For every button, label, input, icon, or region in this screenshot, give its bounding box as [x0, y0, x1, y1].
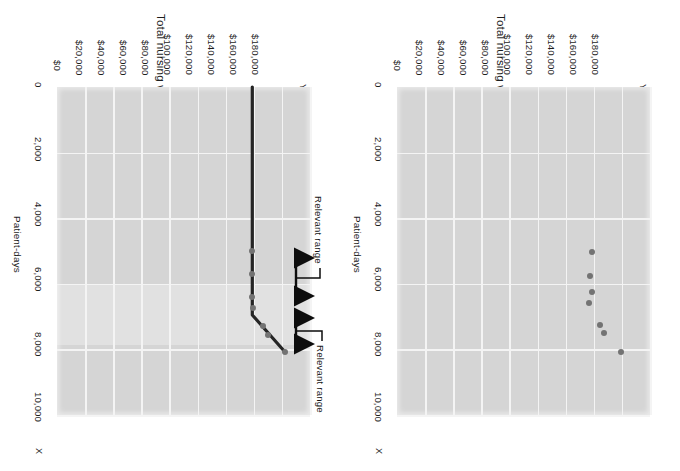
data-point [597, 322, 603, 328]
data-point [282, 349, 288, 355]
data-point [589, 289, 595, 295]
y-tick-5: $100,000 [162, 34, 173, 75]
y-tick-3: $60,000 [458, 40, 469, 75]
chart-right-x-axis-letter: X [374, 448, 384, 454]
gridline-x-6000 [57, 284, 310, 286]
y-tick-7: $140,000 [546, 34, 557, 75]
x-tick-4: 8,000 [33, 332, 44, 357]
y-tick-5: $100,000 [502, 34, 513, 75]
chart-left-plot-area [57, 87, 310, 415]
gridline-y-120000 [566, 87, 568, 415]
gridline-x-10000 [57, 415, 310, 417]
y-tick-9: $180,000 [250, 34, 261, 75]
y-tick-4: $80,000 [480, 40, 491, 75]
gridline-x-8000 [57, 349, 310, 351]
x-tick-2: 4,000 [33, 202, 44, 227]
data-point [601, 330, 607, 336]
x-tick-5: 10,000 [33, 392, 44, 422]
highlight-band [57, 285, 310, 345]
data-point [249, 248, 255, 254]
data-point [265, 332, 271, 338]
y-tick-9: $180,000 [590, 34, 601, 75]
gridline-y-100000 [198, 87, 200, 415]
y-tick-1: $20,000 [414, 40, 425, 75]
y-tick-7: $140,000 [206, 34, 217, 75]
y-tick-4: $80,000 [140, 40, 151, 75]
chart-left-cost-line [57, 87, 310, 415]
x-tick-2: 4,000 [373, 202, 384, 227]
gridline-x-10000 [397, 415, 650, 417]
y-tick-0: $0 [52, 60, 63, 71]
gridline-y-20000 [425, 87, 427, 415]
chart-left-x-axis-letter: X [34, 448, 44, 454]
gridline-y-160000 [622, 87, 624, 415]
y-tick-1: $20,000 [74, 40, 85, 75]
chart-left-x-axis-label: Patient-days [12, 216, 23, 273]
relevant-range-upper-label: Relevant range [313, 196, 324, 264]
gridline-y-160000 [282, 87, 284, 415]
y-tick-8: $160,000 [228, 34, 239, 75]
y-tick-6: $120,000 [524, 34, 535, 75]
x-tick-1: 2,000 [33, 137, 44, 162]
gridline-y-120000 [226, 87, 228, 415]
y-tick-6: $120,000 [184, 34, 195, 75]
data-point [249, 271, 255, 277]
data-point [249, 294, 255, 300]
gridline-x-4000 [57, 218, 310, 220]
x-tick-4: 8,000 [373, 332, 384, 357]
data-point [260, 323, 266, 329]
y-tick-0: $0 [392, 60, 403, 71]
x-tick-3: 6,000 [373, 267, 384, 292]
x-tick-3: 6,000 [33, 267, 44, 292]
data-point [618, 349, 624, 355]
y-tick-8: $160,000 [568, 34, 579, 75]
gridline-y-40000 [113, 87, 115, 415]
y-tick-2: $40,000 [96, 40, 107, 75]
gridline-x-2000 [57, 153, 310, 155]
gridline-x-4000 [397, 218, 650, 220]
chart-right-x-axis-label: Patient-days [352, 216, 363, 273]
gridline-y-20000 [85, 87, 87, 415]
gridline-x-2000 [397, 153, 650, 155]
gridline-y-180000 [650, 87, 652, 415]
data-point [586, 300, 592, 306]
chart-right-plot-area [397, 87, 650, 415]
chart-right: Total nursing wages $0 $20,000 $40,000 $… [340, 0, 680, 471]
data-point [250, 305, 256, 311]
gridline-y-100000 [538, 87, 540, 415]
x-tick-0: 0 [373, 82, 384, 87]
y-tick-3: $60,000 [118, 40, 129, 75]
chart-left: Total nursing wages $0 $20,000 $40,000 $… [0, 0, 340, 471]
y-tick-2: $40,000 [436, 40, 447, 75]
gridline-y-60000 [141, 87, 143, 415]
x-tick-0: 0 [33, 82, 44, 87]
relevant-range-lower-label: Relevant range [315, 345, 326, 413]
data-point [587, 273, 593, 279]
x-tick-5: 10,000 [373, 392, 384, 422]
gridline-y-80000 [509, 87, 511, 415]
x-tick-1: 2,000 [373, 137, 384, 162]
gridline-x-8000 [397, 349, 650, 351]
gridline-y-40000 [453, 87, 455, 415]
gridline-y-60000 [481, 87, 483, 415]
data-point [589, 249, 595, 255]
gridline-x-6000 [397, 284, 650, 286]
figure-page: Total nursing wages $0 $20,000 $40,000 $… [0, 0, 680, 471]
gridline-y-180000 [310, 87, 312, 415]
gridline-y-80000 [169, 87, 171, 415]
